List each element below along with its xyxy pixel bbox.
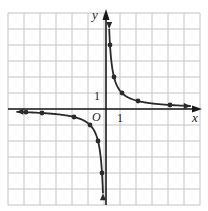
curve-arrow-icon <box>100 193 106 200</box>
data-point <box>112 75 117 80</box>
data-point <box>120 91 125 96</box>
curve-arrow-icon <box>184 103 191 109</box>
data-point <box>168 103 173 108</box>
x-axis-label: x <box>191 110 198 125</box>
data-point <box>100 171 105 176</box>
y-axis-label: y <box>90 7 98 22</box>
data-point <box>72 115 77 120</box>
curve-arrow-icon <box>106 22 112 29</box>
data-point <box>108 43 113 48</box>
data-point <box>24 110 29 115</box>
data-point <box>96 139 101 144</box>
x-tick-label-1: 1 <box>117 111 123 125</box>
origin-label: O <box>92 110 101 124</box>
data-point <box>136 99 141 104</box>
axes <box>8 9 202 205</box>
hyperbola-plot: y x O 1 1 <box>0 0 208 211</box>
y-tick-label-1: 1 <box>94 89 100 103</box>
data-point <box>40 111 45 116</box>
